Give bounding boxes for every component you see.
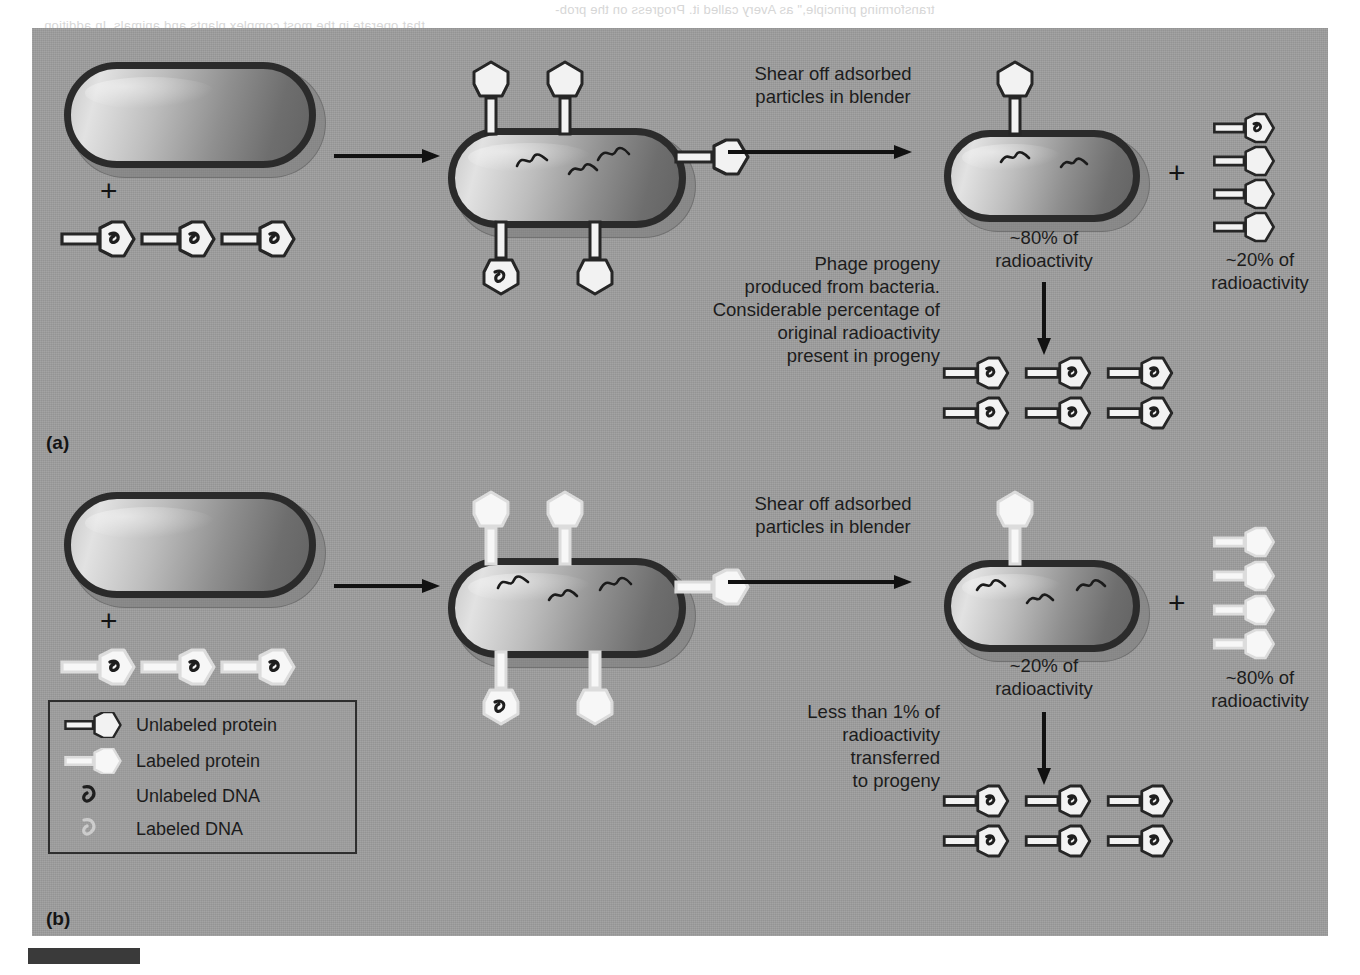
injected-dna-a-2	[568, 160, 598, 180]
bacterium-uninfected-b	[64, 492, 316, 598]
bacterium-sheared-a	[944, 130, 1140, 222]
sheared-bacterium-dna-a-1	[1000, 148, 1030, 168]
adsorbed-phage-b-bottom-1	[484, 652, 518, 724]
adsorbed-phage-a-bottom-1	[484, 222, 518, 294]
legend-item-unlabeled-protein: Unlabeled protein	[50, 708, 355, 742]
legend-label: Labeled protein	[136, 751, 260, 772]
residual-phage-tail-b	[998, 492, 1032, 564]
legend-label: Unlabeled DNA	[136, 786, 260, 807]
adsorbed-phage-a-top-1	[474, 62, 508, 134]
plus-sign-a-shear: +	[1168, 158, 1186, 188]
progeny-phage-b-5	[1022, 826, 1094, 856]
sheared-phage-b-4	[1208, 630, 1280, 658]
bacterium-sheen	[85, 77, 216, 108]
sheared-bacterium-dna-b-1	[976, 576, 1006, 596]
plus-sign-b-shear: +	[1168, 588, 1186, 618]
progeny-phage-a-6	[1104, 398, 1176, 428]
sheared-phage-a-1	[1208, 114, 1280, 142]
progeny-phage-b-1	[940, 786, 1012, 816]
shear-label-b: Shear off adsorbed particles in blender	[708, 492, 958, 538]
progeny-phage-b-3	[1104, 786, 1176, 816]
ghost-text-line1: transforming principle," as Avery called…	[555, 2, 935, 17]
legend-box: Unlabeled protein Labeled protein Unlabe…	[48, 700, 357, 854]
panel-letter-b: (b)	[46, 908, 70, 930]
progeny-phage-a-2	[1022, 358, 1094, 388]
input-phage-a-2	[142, 222, 214, 256]
bacteria-radioactivity-a: ~80% of radioactivity	[960, 226, 1128, 272]
progeny-label-b: Less than 1% of radioactivity transferre…	[680, 700, 940, 792]
input-phage-a-3	[222, 222, 294, 256]
adsorbed-phage-b-top-2	[548, 492, 582, 564]
unlabeled-protein-phage-icon	[50, 708, 136, 742]
shear-label-a: Shear off adsorbed particles in blender	[708, 62, 958, 108]
sheared-bacterium-dna-b-2	[1026, 590, 1054, 608]
progeny-phage-b-4	[940, 826, 1012, 856]
arrow-b-shear	[728, 574, 914, 590]
sheared-phage-a-4	[1208, 213, 1280, 241]
bacteria-radioactivity-b: ~20% of radioactivity	[960, 654, 1128, 700]
progeny-phage-a-5	[1022, 398, 1094, 428]
legend-label: Unlabeled protein	[136, 715, 277, 736]
bacterium-uninfected-a	[64, 62, 316, 168]
legend-item-unlabeled-dna: Unlabeled DNA	[50, 779, 355, 813]
phage-radioactivity-b: ~80% of radioactivity	[1176, 666, 1344, 712]
bacterium-infected-b	[448, 558, 686, 658]
adsorbed-phage-b-bottom-2	[578, 652, 612, 724]
adsorbed-phage-a-top-2	[548, 62, 582, 134]
figure-number-bar	[28, 948, 140, 964]
input-phage-b-2	[142, 650, 214, 684]
arrow-a-infect	[334, 148, 442, 164]
arrow-b-progeny	[1036, 712, 1052, 786]
progeny-label-a: Phage progeny produced from bacteria. Co…	[600, 252, 940, 367]
progeny-phage-b-2	[1022, 786, 1094, 816]
bacterium-body	[944, 130, 1140, 222]
bacterium-body	[64, 62, 316, 168]
input-phage-b-3	[222, 650, 294, 684]
injected-dna-b-1	[496, 572, 530, 594]
legend-item-labeled-dna: Labeled DNA	[50, 812, 355, 846]
input-phage-b-1	[62, 650, 134, 684]
injected-dna-a-3	[596, 142, 630, 164]
sheared-phage-b-3	[1208, 596, 1280, 624]
sheared-bacterium-dna-b-3	[1076, 576, 1106, 596]
panel-letter-a: (a)	[46, 432, 69, 454]
legend-item-labeled-protein: Labeled protein	[50, 744, 355, 778]
arrow-a-progeny	[1036, 282, 1052, 356]
progeny-phage-b-6	[1104, 826, 1176, 856]
plus-sign-b: +	[100, 606, 118, 636]
sheared-phage-b-2	[1208, 562, 1280, 590]
injected-dna-b-3	[598, 572, 632, 594]
residual-phage-tail-a	[998, 62, 1032, 134]
sheared-bacterium-dna-a-2	[1060, 154, 1088, 172]
plus-sign-a: +	[100, 176, 118, 206]
figure-page: transforming principle," as Avery called…	[0, 0, 1360, 975]
arrow-a-shear	[728, 144, 914, 160]
phage-radioactivity-a: ~20% of radioactivity	[1176, 248, 1344, 294]
legend-label: Labeled DNA	[136, 819, 243, 840]
input-phage-a-1	[62, 222, 134, 256]
injected-dna-b-2	[548, 586, 578, 606]
bacterium-body	[448, 558, 686, 658]
sheared-phage-a-3	[1208, 180, 1280, 208]
bacterium-infected-a	[448, 128, 686, 228]
bacterium-body	[64, 492, 316, 598]
sheared-phage-a-2	[1208, 147, 1280, 175]
labeled-dna-icon	[50, 812, 136, 846]
bacterium-sheen	[85, 507, 216, 538]
injected-dna-a-1	[515, 150, 549, 172]
unlabeled-dna-icon	[50, 779, 136, 813]
sheared-phage-b-1	[1208, 528, 1280, 556]
arrow-b-infect	[334, 578, 442, 594]
labeled-protein-phage-icon	[50, 744, 136, 778]
progeny-phage-a-3	[1104, 358, 1176, 388]
adsorbed-phage-b-top-1	[474, 492, 508, 564]
bacterium-body	[448, 128, 686, 228]
progeny-phage-a-1	[940, 358, 1012, 388]
progeny-phage-a-4	[940, 398, 1012, 428]
